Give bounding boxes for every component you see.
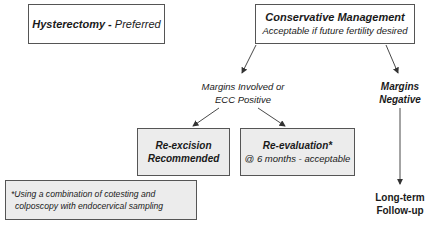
conservative-note: Acceptable if future fertility desired — [262, 24, 407, 37]
margins-involved-line2: ECC Positive — [190, 93, 296, 106]
footnote-line1: *Using a combination of cotesting and — [11, 188, 155, 200]
margins-involved-label: Margins Involved or ECC Positive — [190, 80, 296, 106]
conservative-title: Conservative Management — [265, 11, 404, 24]
conservative-management-box: Conservative Management Acceptable if fu… — [255, 4, 415, 44]
followup-line2: Follow-up — [368, 204, 432, 217]
hysterectomy-title: Hysterectomy — [32, 18, 105, 30]
long-term-followup-label: Long-term Follow-up — [368, 191, 432, 217]
margins-negative-line2: Negative — [370, 93, 430, 106]
reexcision-line2: Recommended — [148, 152, 220, 165]
reevaluation-box: Re-evaluation* @ 6 months - acceptable — [240, 128, 355, 176]
margins-negative-line1: Margins — [370, 80, 430, 93]
reexcision-line1: Re-excision — [155, 139, 211, 152]
hysterectomy-note: Preferred — [115, 18, 161, 30]
reevaluation-title: Re-evaluation* — [263, 139, 332, 152]
hysterectomy-box: Hysterectomy - Preferred — [28, 4, 165, 44]
margins-negative-label: Margins Negative — [370, 80, 430, 106]
reexcision-box: Re-excision Recommended — [137, 128, 230, 176]
hysterectomy-text: Hysterectomy - Preferred — [32, 18, 160, 30]
hysterectomy-separator: - — [105, 18, 115, 30]
footnote-line2: colposcopy with endocervical sampling — [11, 200, 163, 212]
footnote-box: *Using a combination of cotesting and co… — [5, 180, 197, 220]
reevaluation-note: @ 6 months - acceptable — [245, 152, 351, 165]
margins-involved-line1: Margins Involved or — [190, 80, 296, 93]
followup-line1: Long-term — [368, 191, 432, 204]
